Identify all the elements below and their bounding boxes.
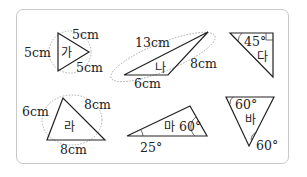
angle-label: 60° — [256, 138, 278, 153]
triangle-name: 바 — [245, 113, 256, 127]
side-label: 5cm — [24, 45, 51, 60]
angle-label: 45° — [244, 34, 266, 49]
triangle-na: 13cm 8cm 6cm 나 — [106, 23, 220, 91]
side-label: 6cm — [134, 76, 161, 91]
triangle-name: 다 — [257, 50, 268, 64]
triangle-ra: 6cm 8cm 8cm 라 — [22, 95, 111, 157]
angle-label: 25° — [140, 140, 162, 155]
triangle-ba: 60° 60° 바 — [226, 97, 278, 153]
side-label: 13cm — [135, 35, 170, 50]
triangles-diagram: 5cm 5cm 5cm 가 13cm 8cm 6cm 나 45° 다 6cm 8… — [0, 0, 307, 177]
triangle-da: 45° 다 — [230, 33, 273, 77]
angle-label: 60° — [179, 119, 201, 134]
triangle-ga: 5cm 5cm 5cm 가 — [24, 27, 103, 75]
side-label: 5cm — [72, 27, 99, 42]
triangle-ma: 25° 60° 마 — [127, 106, 207, 155]
triangle-name: 가 — [61, 46, 72, 60]
angle-label: 60° — [235, 97, 257, 112]
triangle-name: 나 — [155, 61, 166, 75]
triangle-name: 마 — [164, 120, 175, 134]
triangle-name: 라 — [64, 120, 75, 134]
side-label: 8cm — [84, 97, 111, 112]
side-label: 8cm — [190, 56, 217, 71]
side-label: 6cm — [22, 104, 49, 119]
side-label: 5cm — [76, 60, 103, 75]
side-label: 8cm — [60, 142, 87, 157]
